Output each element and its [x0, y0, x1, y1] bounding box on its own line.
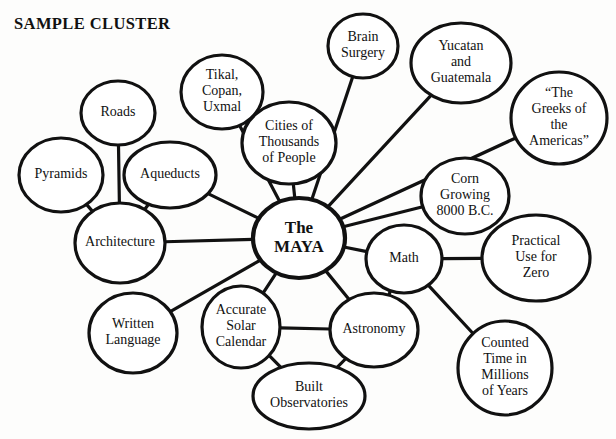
cluster-node-calendar[interactable]: AccurateSolarCalendar — [202, 286, 280, 368]
cluster-node-astronomy[interactable]: Astronomy — [330, 293, 418, 367]
cluster-edge — [428, 285, 473, 333]
cluster-edge — [326, 271, 350, 300]
cluster-node-yucatan[interactable]: YucatanandGuatemala — [411, 23, 511, 103]
cluster-node-greeks[interactable]: “TheGreeks oftheAmericas” — [511, 72, 607, 164]
node-label: Cities ofThousandsof People — [259, 118, 320, 165]
cluster-edge — [280, 328, 330, 329]
cluster-diagram-canvas: TheMAYATikal,Copan,UxmalBrainSurgeryYuca… — [0, 0, 616, 439]
cluster-edge — [328, 95, 431, 207]
cluster-node-roads[interactable]: Roads — [81, 81, 155, 145]
cluster-edge — [165, 239, 253, 241]
cluster-node-observatories[interactable]: BuiltObservatories — [253, 363, 365, 429]
cluster-node-brain[interactable]: BrainSurgery — [328, 14, 398, 78]
cluster-node-maya[interactable]: TheMAYA — [253, 198, 345, 278]
node-label: Architecture — [85, 234, 155, 249]
cluster-node-aqueducts[interactable]: Aqueducts — [124, 142, 216, 208]
cluster-node-cities[interactable]: Cities ofThousandsof People — [242, 102, 336, 184]
cluster-node-math[interactable]: Math — [366, 225, 442, 293]
cluster-edge — [344, 247, 367, 252]
node-label: WrittenLanguage — [105, 316, 160, 347]
cluster-edge — [118, 145, 119, 203]
cluster-node-pyramids[interactable]: Pyramids — [19, 138, 103, 212]
cluster-edge — [263, 273, 276, 293]
cluster-node-written[interactable]: WrittenLanguage — [89, 293, 177, 373]
cluster-node-zero[interactable]: PracticalUse forZero — [482, 215, 590, 301]
page-title: SAMPLE CLUSTER — [14, 14, 170, 34]
cluster-node-architecture[interactable]: Architecture — [75, 203, 165, 283]
node-label: Astronomy — [343, 321, 406, 336]
cluster-edge — [343, 207, 423, 227]
cluster-edge — [208, 194, 259, 219]
cluster-edge — [337, 359, 346, 368]
cluster-diagram-page: SAMPLE CLUSTER TheMAYATikal,Copan,UxmalB… — [0, 0, 616, 439]
cluster-edge — [269, 355, 281, 367]
nodes-layer: TheMAYATikal,Copan,UxmalBrainSurgeryYuca… — [19, 14, 607, 429]
node-label: BrainSurgery — [341, 29, 385, 60]
cluster-edge — [293, 184, 295, 198]
cluster-node-counted[interactable]: CountedTime inMillionsof Years — [458, 321, 552, 415]
cluster-node-corn[interactable]: CornGrowing8000 B.C. — [421, 158, 509, 234]
node-label: CountedTime inMillionsof Years — [481, 335, 528, 398]
node-label: Math — [389, 250, 419, 265]
node-label: Roads — [101, 104, 136, 119]
node-label: Aqueducts — [140, 166, 200, 181]
node-label: Tikal,Copan,Uxmal — [202, 67, 242, 114]
node-label: Pyramids — [35, 166, 88, 181]
